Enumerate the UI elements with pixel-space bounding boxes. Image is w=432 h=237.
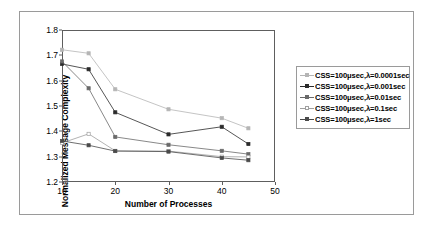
data-point-marker (114, 135, 117, 138)
y-tick-label: 1.7 (46, 51, 58, 60)
legend-label: CSS=100μsec,λ=1sec (315, 115, 391, 124)
data-point-marker (247, 142, 250, 145)
legend-marker-icon (299, 92, 315, 103)
x-tick-mark (275, 182, 276, 185)
data-point-marker (87, 68, 90, 71)
data-point-marker (114, 88, 117, 91)
x-tick-label: 50 (270, 187, 279, 196)
y-tick-label: 1.2 (46, 178, 58, 187)
x-tick-label: 30 (164, 187, 173, 196)
legend-marker-icon (299, 103, 315, 114)
data-point-marker (220, 117, 223, 120)
data-point-marker (167, 143, 170, 146)
series-lines-layer (62, 30, 275, 182)
y-tick-label: 1.5 (46, 102, 58, 111)
data-point-marker (167, 150, 170, 153)
legend-label: CSS=100μsec,λ=0.1sec (315, 104, 397, 113)
y-tick-label: 1.4 (46, 127, 58, 136)
legend-square-icon (305, 73, 309, 77)
legend-square-icon (305, 117, 309, 121)
legend-marker-icon (299, 114, 315, 125)
legend-square-icon (305, 84, 309, 88)
legend-item: CSS=100μsec,λ=1sec (299, 114, 407, 125)
y-tick-label: 1.3 (46, 152, 58, 161)
legend-square-icon (305, 106, 309, 110)
series-2 (60, 60, 250, 156)
y-axis-label-wrapper: Normalized Message Complexity (30, 30, 31, 182)
data-point-marker (247, 159, 250, 162)
x-tick-mark (169, 182, 170, 185)
data-point-marker (114, 149, 117, 152)
data-point-marker (60, 139, 63, 142)
x-tick-label: 20 (111, 187, 120, 196)
legend-label: CSS=100μsec,λ=0.0001sec (315, 71, 409, 80)
data-point-marker (87, 144, 90, 147)
data-point-marker (220, 156, 223, 159)
legend-item: CSS=100μsec,λ=0.1sec (299, 103, 407, 114)
legend-label: CSS=100μsec,λ=0.01sec (315, 93, 401, 102)
legend-square-icon (305, 95, 309, 99)
x-tick-label: 40 (217, 187, 226, 196)
data-point-marker (220, 125, 223, 128)
data-point-marker (247, 127, 250, 130)
data-point-marker (220, 149, 223, 152)
legend: CSS=100μsec,λ=0.0001secCSS=100μsec,λ=0.0… (296, 66, 410, 129)
chart-figure: Normalized Message Complexity 1.21.31.41… (0, 0, 432, 237)
series-line (62, 61, 248, 154)
data-point-marker (60, 48, 63, 51)
data-point-marker (87, 132, 90, 135)
x-tick-mark (222, 182, 223, 185)
x-tick-mark (115, 182, 116, 185)
y-tick-label: 1.8 (46, 26, 58, 35)
data-point-marker (87, 52, 90, 55)
data-point-marker (167, 133, 170, 136)
legend-item: CSS=100μsec,λ=0.01sec (299, 92, 407, 103)
legend-item: CSS=100μsec,λ=0.0001sec (299, 70, 407, 81)
x-axis-label: Number of Processes (62, 199, 275, 209)
data-point-marker (60, 60, 63, 63)
legend-label: CSS=100μsec,λ=0.001sec (315, 82, 405, 91)
legend-marker-icon (299, 70, 315, 81)
data-point-marker (114, 111, 117, 114)
data-point-marker (247, 155, 250, 158)
data-point-marker (87, 87, 90, 90)
data-point-marker (167, 108, 170, 111)
legend-marker-icon (299, 81, 315, 92)
y-tick-label: 1.6 (46, 76, 58, 85)
plot-area: 1.21.31.41.51.61.71.8 1020304050 (62, 30, 275, 182)
x-tick-mark (62, 182, 63, 185)
x-tick-label: 10 (57, 187, 66, 196)
legend-item: CSS=100μsec,λ=0.001sec (299, 81, 407, 92)
